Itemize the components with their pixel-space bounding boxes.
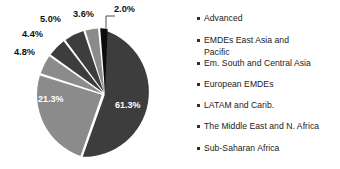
legend-marker-icon [197,83,200,86]
pie-svg [0,0,195,169]
legend-item-em-south-central-asia[interactable]: Em. South and Central Asia [197,58,311,70]
legend-label: The Middle East and N. Africa [204,121,319,133]
slice-value-middle-east-n-africa: 3.6% [73,9,94,19]
pie-slices [37,28,149,157]
slice-value-latam-carib: 5.0% [40,14,61,24]
legend-marker-icon [197,147,200,150]
slice-value-sub-saharan-africa: 2.0% [114,4,135,14]
legend-marker-icon [197,17,200,20]
leader-line-sub-saharan-africa [106,16,115,28]
legend-item-middle-east-n-africa[interactable]: The Middle East and N. Africa [197,121,319,133]
pie-chart-plot: 61.3% 21.3% 4.8% 4.4% 5.0% 3.6% 2.0% [0,0,195,169]
legend-label: Em. South and Central Asia [204,58,311,70]
legend-marker-icon [197,104,200,107]
chart-legend: Advanced EMDEs East Asia and Pacific Em.… [197,0,340,169]
slice-value-em-south-central-asia: 4.8% [14,47,35,57]
legend-label: European EMDEs [204,79,273,91]
legend-item-advanced[interactable]: Advanced [197,13,243,25]
legend-item-latam-carib[interactable]: LATAM and Carib. [197,100,274,112]
legend-label: LATAM and Carib. [204,100,274,112]
legend-label: Advanced [204,13,243,25]
legend-item-emdes-east-asia-pacific[interactable]: EMDEs East Asia and Pacific [197,35,289,58]
pie-chart-figure: 61.3% 21.3% 4.8% 4.4% 5.0% 3.6% 2.0% Adv… [0,0,340,169]
legend-label: EMDEs East Asia and Pacific [204,35,289,58]
legend-marker-icon [197,62,200,65]
slice-value-european-emdes: 4.4% [22,29,43,39]
legend-marker-icon [197,39,200,42]
legend-item-sub-saharan-africa[interactable]: Sub-Saharan Africa [197,143,279,155]
legend-label: Sub-Saharan Africa [204,143,279,155]
slice-value-emdes-east-asia-pacific: 21.3% [38,94,64,104]
legend-marker-icon [197,125,200,128]
legend-item-european-emdes[interactable]: European EMDEs [197,79,273,91]
slice-value-advanced: 61.3% [115,100,141,110]
